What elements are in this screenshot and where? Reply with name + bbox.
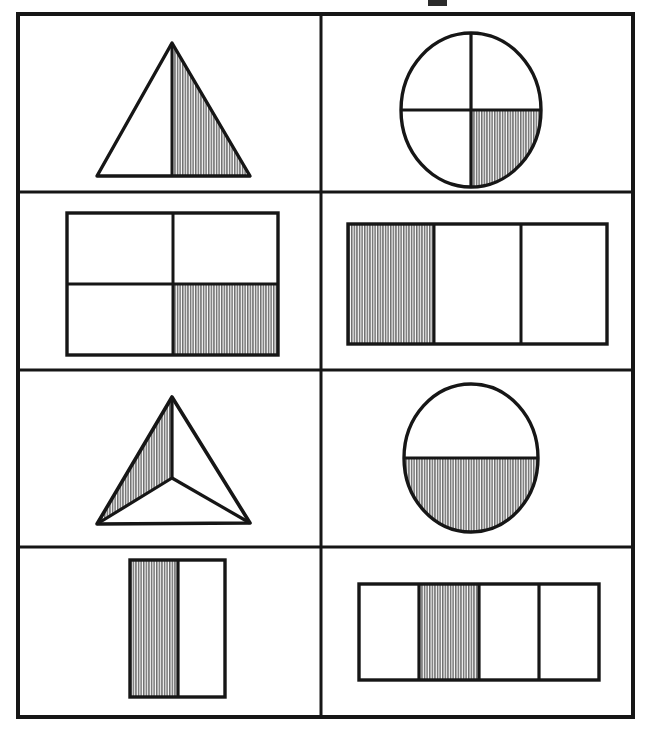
top-edge-mark <box>428 0 447 6</box>
cell-5-spoke-right <box>172 478 250 523</box>
cell-8-rectangle-quarters <box>359 584 599 680</box>
cell-6-circle-half <box>400 384 545 538</box>
fraction-figure-grid <box>0 0 645 733</box>
cell-8-shaded-region <box>419 584 479 680</box>
cell-3-shaded-region <box>173 284 278 355</box>
cell-6-shaded-region <box>400 458 545 538</box>
worksheet-page <box>0 0 645 733</box>
cell-2-circle-quarter <box>401 33 551 200</box>
cell-4-shaded-region <box>348 224 434 344</box>
cell-4-rectangle-thirds <box>348 224 607 344</box>
cell-3-square-quarters <box>67 213 278 355</box>
cell-7-shaded-region <box>130 560 178 697</box>
cell-5-triangle-thirds <box>97 397 250 524</box>
cell-7-rectangle-halves <box>130 560 225 697</box>
cell-1-triangle-half <box>97 43 250 176</box>
